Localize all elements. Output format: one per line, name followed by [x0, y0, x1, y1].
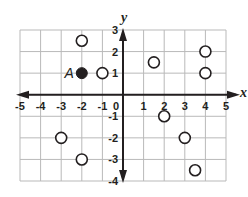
x-tick-label: 1 — [141, 100, 147, 112]
y-tick-label: -3 — [108, 153, 118, 165]
y-tick-label: 1 — [112, 67, 118, 79]
x-tick-label: 2 — [161, 100, 167, 112]
x-tick-label: -4 — [36, 100, 47, 112]
coordinate-plane: xy -5-4-3-2-1012345-4-3-2-1123 A — [0, 0, 248, 197]
y-tick-label: -4 — [108, 175, 119, 187]
y-tick-label: 2 — [112, 46, 118, 58]
open-point — [200, 68, 211, 79]
x-tick-label: 3 — [182, 100, 188, 112]
y-tick-label: -1 — [108, 110, 118, 122]
x-tick-label: -1 — [98, 100, 108, 112]
y-axis-label: y — [119, 10, 128, 25]
open-point — [200, 46, 211, 57]
x-tick-label: 5 — [223, 100, 229, 112]
open-point — [97, 68, 108, 79]
x-tick-label: -5 — [15, 100, 25, 112]
open-point — [179, 132, 190, 143]
open-point — [148, 57, 159, 68]
open-point — [190, 165, 201, 176]
x-axis-right-arrow-icon — [227, 91, 240, 99]
x-tick-label: -2 — [77, 100, 87, 112]
y-tick-label: -2 — [108, 132, 118, 144]
x-axis-label: x — [239, 85, 247, 100]
point-a — [76, 68, 87, 79]
axes: xy — [16, 10, 247, 183]
x-axis-left-arrow-icon — [16, 91, 29, 99]
open-point — [56, 132, 67, 143]
point-label: A — [63, 65, 73, 81]
open-point — [76, 35, 87, 46]
open-point — [159, 111, 170, 122]
x-tick-label: -3 — [56, 100, 66, 112]
open-point — [76, 154, 87, 165]
x-tick-label: 4 — [202, 100, 209, 112]
y-tick-label: 3 — [112, 24, 118, 36]
